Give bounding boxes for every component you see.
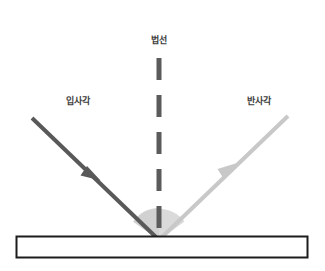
reflection-diagram: 법선 입사각 반사각 <box>0 0 325 271</box>
reflecting-surface <box>17 237 308 258</box>
normal-line-label: 법선 <box>151 36 167 45</box>
reflection-angle-label: 반사각 <box>247 97 272 106</box>
incident-angle-label: 입사각 <box>66 97 91 106</box>
